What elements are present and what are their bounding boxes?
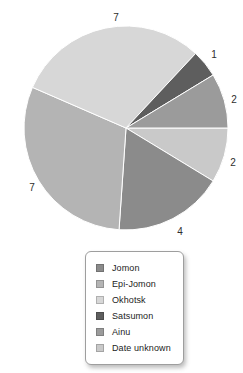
slice-value-satsumon: 1 [211, 49, 217, 60]
slice-value-date-unknown: 2 [230, 157, 236, 168]
slice-value-epi-jomon: 7 [29, 182, 35, 193]
legend-swatch-ainu [96, 328, 104, 336]
legend-swatch-epi-jomon [96, 280, 104, 288]
legend-label-satsumon: Satsumon [112, 311, 153, 321]
legend-label-date-unknown: Date unknown [112, 343, 171, 353]
legend-swatch-okhotsk [96, 296, 104, 304]
legend-swatch-satsumon [96, 312, 104, 320]
legend-item-okhotsk: Okhotsk [96, 292, 179, 308]
legend-item-jomon: Jomon [96, 260, 179, 276]
legend: Jomon Epi-Jomon Okhotsk Satsumon Ainu Da… [85, 251, 184, 365]
slice-value-jomon: 4 [177, 226, 183, 237]
legend-item-date-unknown: Date unknown [96, 340, 179, 356]
legend-label-jomon: Jomon [112, 263, 140, 273]
slice-value-okhotsk: 7 [113, 12, 119, 23]
legend-swatch-date-unknown [96, 344, 104, 352]
legend-item-satsumon: Satsumon [96, 308, 179, 324]
legend-item-epi-jomon: Epi-Jomon [96, 276, 179, 292]
pie-chart: 477122 [0, 0, 243, 246]
slice-value-ainu: 2 [231, 94, 237, 105]
legend-label-epi-jomon: Epi-Jomon [112, 279, 156, 289]
pie-chart-figure: 477122 Jomon Epi-Jomon Okhotsk Satsumon … [0, 0, 243, 373]
legend-label-okhotsk: Okhotsk [112, 295, 146, 305]
legend-label-ainu: Ainu [112, 327, 130, 337]
legend-swatch-jomon [96, 264, 104, 272]
legend-item-ainu: Ainu [96, 324, 179, 340]
